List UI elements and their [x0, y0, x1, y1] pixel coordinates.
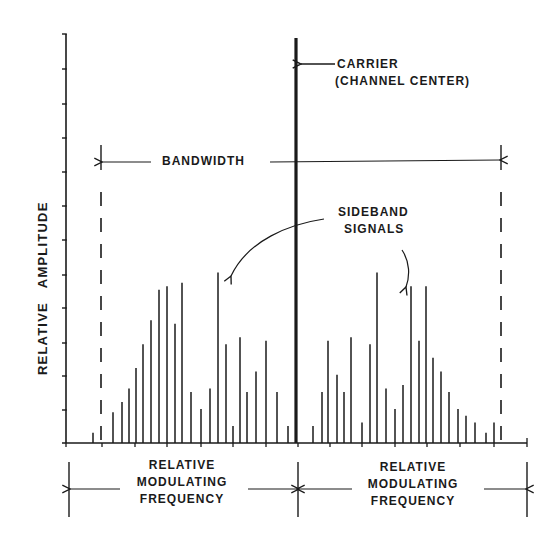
- y-axis-label: RELATIVE AMPLITUDE: [36, 202, 49, 376]
- bandwidth-label: BANDWIDTH: [162, 155, 245, 167]
- sideband-lines: [93, 38, 494, 443]
- left-freq-label-line2: MODULATING: [117, 476, 247, 488]
- annotations: [69, 64, 527, 517]
- signals-label: SIGNALS: [344, 223, 404, 235]
- right-freq-label-line2: MODULATING: [348, 478, 478, 490]
- sideband-spectrum-diagram: RELATIVE AMPLITUDE BANDWIDTH CARRIER (CH…: [0, 0, 554, 553]
- channel-center-label: (CHANNEL CENTER): [335, 75, 470, 87]
- bandwidth-right-arrow: [270, 160, 500, 162]
- right-freq-label-line3: FREQUENCY: [348, 495, 478, 507]
- sideband-right-curved-arrow: [402, 250, 409, 287]
- left-freq-label-line3: FREQUENCY: [117, 493, 247, 505]
- left-freq-label-line1: RELATIVE: [117, 459, 247, 471]
- carrier-label: CARRIER: [337, 58, 399, 70]
- sideband-left-curved-arrow: [231, 219, 324, 276]
- sideband-label: SIDEBAND: [338, 206, 409, 218]
- right-freq-label-line1: RELATIVE: [348, 461, 478, 473]
